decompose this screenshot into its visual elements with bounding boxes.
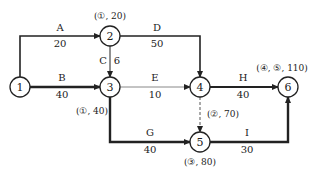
node-3: 3 <box>100 77 120 97</box>
activity-g-duration: 40 <box>144 144 157 155</box>
node-1: 1 <box>10 77 30 97</box>
node-3-label: 3 <box>107 81 114 94</box>
activity-i-duration: 30 <box>241 144 254 155</box>
node-6-annotation: (④, ⑤, 110) <box>256 63 308 73</box>
activity-b-duration: 40 <box>56 89 69 100</box>
node-2-annotation: (①, 20) <box>94 11 126 21</box>
activity-a-name: A <box>55 22 64 33</box>
node-1-label: 1 <box>17 81 24 94</box>
activity-h-duration: 40 <box>237 89 250 100</box>
activity-i-arrow <box>210 97 288 142</box>
node-5-annotation: (③, 80) <box>184 157 216 167</box>
node-2: 2 <box>100 26 120 46</box>
activity-i-name: I <box>245 127 249 138</box>
activity-d-name: D <box>153 22 161 33</box>
network-diagram: A 20 B 40 C 6 D 50 E 10 G 40 H 40 I 30 1… <box>0 0 319 174</box>
activity-h-name: H <box>239 72 248 83</box>
node-3-annotation: (①, 40) <box>76 106 108 116</box>
activity-g-name: G <box>146 127 154 138</box>
activity-d-duration: 50 <box>151 38 164 49</box>
node-5: 5 <box>190 132 210 152</box>
activity-a-duration: 20 <box>54 38 67 49</box>
activity-e-duration: 10 <box>149 89 162 100</box>
node-2-label: 2 <box>107 30 114 43</box>
activity-e-name: E <box>151 72 158 83</box>
node-4-annotation: (②, 70) <box>207 109 239 119</box>
node-5-label: 5 <box>197 136 204 149</box>
node-6: 6 <box>278 77 298 97</box>
activity-c-name: C <box>99 55 107 66</box>
node-4-label: 4 <box>197 81 204 94</box>
activity-b-name: B <box>58 72 65 83</box>
activity-c-duration: 6 <box>114 55 120 66</box>
node-6-label: 6 <box>285 81 292 94</box>
node-4: 4 <box>190 77 210 97</box>
